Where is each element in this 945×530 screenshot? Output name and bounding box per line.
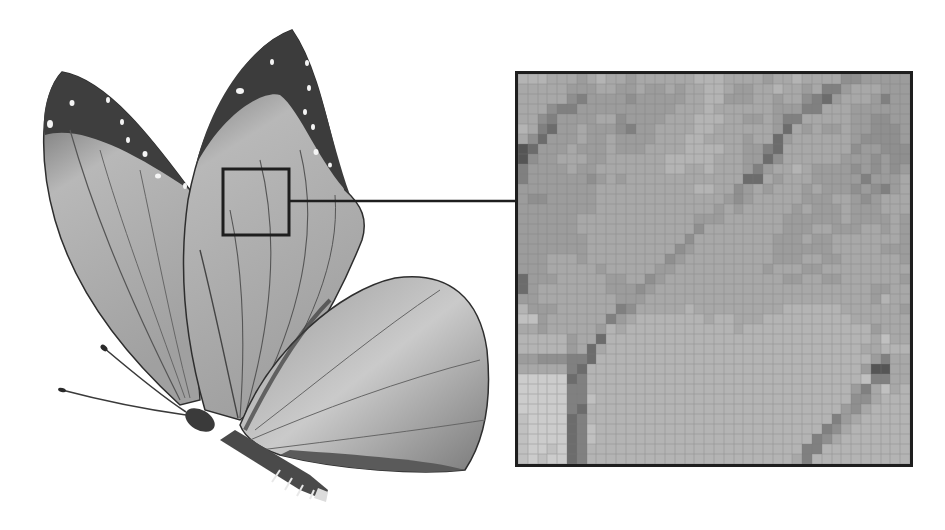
pixel-cell xyxy=(694,434,704,444)
pixel-cell xyxy=(587,334,597,344)
pixel-cell xyxy=(645,434,655,444)
pixel-cell xyxy=(832,184,842,194)
pixel-cell xyxy=(734,294,744,304)
pixel-cell xyxy=(675,344,685,354)
pixel-cell xyxy=(841,134,851,144)
pixel-cell xyxy=(547,144,557,154)
pixel-cell xyxy=(753,454,763,464)
pixel-cell xyxy=(832,364,842,374)
pixel-cell xyxy=(783,444,793,454)
pixel-cell xyxy=(528,354,538,364)
pixel-cell xyxy=(773,424,783,434)
pixel-cell xyxy=(606,424,616,434)
pixel-cell xyxy=(557,354,567,364)
pixel-cell xyxy=(626,74,636,84)
pixel-cell xyxy=(802,194,812,204)
pixel-cell xyxy=(704,124,714,134)
pixel-cell xyxy=(832,334,842,344)
pixel-cell xyxy=(714,274,724,284)
pixel-cell xyxy=(665,414,675,424)
pixel-cell xyxy=(832,194,842,204)
pixel-cell xyxy=(881,344,891,354)
pixel-cell xyxy=(616,104,626,114)
pixel-cell xyxy=(596,74,606,84)
pixel-cell xyxy=(577,224,587,234)
pixel-cell xyxy=(655,164,665,174)
pixel-cell xyxy=(528,374,538,384)
pixel-cell xyxy=(822,414,832,424)
pixel-cell xyxy=(557,204,567,214)
pixel-cell xyxy=(822,434,832,444)
pixel-cell xyxy=(675,244,685,254)
pixel-cell xyxy=(606,154,616,164)
pixel-cell xyxy=(773,394,783,404)
pixel-cell xyxy=(881,144,891,154)
pixel-cell xyxy=(881,254,891,264)
pixel-cell xyxy=(734,204,744,214)
pixel-cell xyxy=(851,274,861,284)
pixel-cell xyxy=(812,194,822,204)
pixel-cell xyxy=(694,134,704,144)
pixel-cell xyxy=(694,314,704,324)
pixel-cell xyxy=(636,424,646,434)
pixel-cell xyxy=(577,314,587,324)
pixel-cell xyxy=(596,194,606,204)
pixel-cell xyxy=(743,304,753,314)
pixel-cell xyxy=(890,154,900,164)
pixel-cell xyxy=(626,254,636,264)
pixel-cell xyxy=(753,334,763,344)
pixel-cell xyxy=(547,194,557,204)
pixel-cell xyxy=(802,184,812,194)
pixel-cell xyxy=(714,164,724,174)
pixel-cell xyxy=(645,274,655,284)
pixel-cell xyxy=(773,324,783,334)
pixel-cell xyxy=(547,74,557,84)
pixel-cell xyxy=(841,374,851,384)
pixel-cell xyxy=(626,324,636,334)
pixel-cell xyxy=(812,164,822,174)
pixel-cell xyxy=(528,134,538,144)
pixel-cell xyxy=(851,94,861,104)
pixel-cell xyxy=(606,164,616,174)
pixel-cell xyxy=(557,334,567,344)
pixel-cell xyxy=(528,94,538,104)
pixel-cell xyxy=(577,434,587,444)
pixel-cell xyxy=(851,74,861,84)
pixel-cell xyxy=(783,284,793,294)
pixel-cell xyxy=(890,264,900,274)
pixel-cell xyxy=(743,334,753,344)
pixel-cell xyxy=(871,224,881,234)
pixel-cell xyxy=(812,344,822,354)
pixel-cell xyxy=(763,234,773,244)
pixel-cell xyxy=(557,344,567,354)
pixel-cell xyxy=(577,344,587,354)
pixel-cell xyxy=(636,234,646,244)
pixel-cell xyxy=(567,274,577,284)
pixel-cell xyxy=(773,264,783,274)
pixel-cell xyxy=(518,224,528,234)
pixel-cell xyxy=(626,294,636,304)
pixel-cell xyxy=(900,244,910,254)
pixel-cell xyxy=(518,174,528,184)
pixel-cell xyxy=(743,404,753,414)
pixel-cell xyxy=(557,384,567,394)
pixel-cell xyxy=(606,414,616,424)
pixel-cell xyxy=(694,244,704,254)
pixel-cell xyxy=(783,314,793,324)
pixel-cell xyxy=(871,144,881,154)
pixel-cell xyxy=(792,424,802,434)
pixel-cell xyxy=(822,364,832,374)
pixel-cell xyxy=(763,354,773,364)
pixel-cell xyxy=(714,104,724,114)
pixel-cell xyxy=(636,314,646,324)
magnified-pixel-view xyxy=(515,71,913,467)
pixel-cell xyxy=(900,84,910,94)
pixel-cell xyxy=(812,434,822,444)
pixel-cell xyxy=(655,144,665,154)
pixel-cell xyxy=(704,184,714,194)
pixel-cell xyxy=(665,144,675,154)
pixel-cell xyxy=(538,74,548,84)
pixel-cell xyxy=(645,114,655,124)
pixel-cell xyxy=(567,264,577,274)
pixel-cell xyxy=(587,114,597,124)
